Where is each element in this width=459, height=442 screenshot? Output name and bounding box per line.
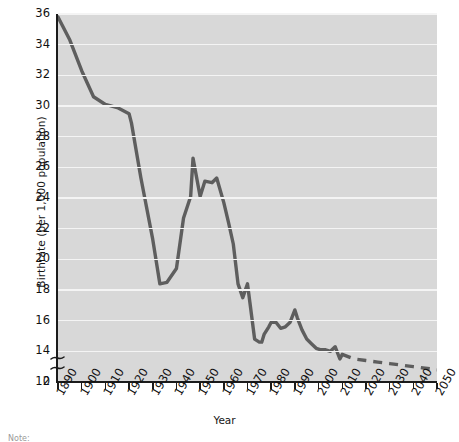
gridline bbox=[58, 228, 437, 230]
y-axis-tick-label: 28 bbox=[26, 131, 50, 143]
figure-footnote: Note: bbox=[8, 434, 438, 442]
gridline bbox=[58, 320, 437, 322]
gridline bbox=[58, 105, 437, 107]
gridline bbox=[58, 44, 437, 46]
x-axis-title: Year bbox=[0, 414, 449, 426]
gridline bbox=[58, 75, 437, 77]
birthrate-actual-line bbox=[58, 17, 342, 359]
y-axis-tick-label: 20 bbox=[26, 253, 50, 265]
y-axis-tick-label: 18 bbox=[26, 284, 50, 296]
y-axis-tick-label: 30 bbox=[26, 100, 50, 112]
gridline bbox=[58, 167, 437, 169]
gridline bbox=[58, 259, 437, 261]
y-axis-tick-label: 32 bbox=[26, 69, 50, 81]
gridline bbox=[58, 197, 437, 199]
y-axis-tick-label: 22 bbox=[26, 223, 50, 235]
y-axis-tick-label: 24 bbox=[26, 192, 50, 204]
gridline bbox=[58, 13, 437, 15]
plot-area bbox=[58, 14, 437, 382]
gridline bbox=[58, 351, 437, 353]
y-axis-line bbox=[56, 14, 58, 382]
y-axis-tick-label: 36 bbox=[26, 8, 50, 20]
y-axis-tick-label: 16 bbox=[26, 315, 50, 327]
gridline bbox=[58, 289, 437, 291]
gridline bbox=[58, 136, 437, 138]
x-axis-tick-label: 2050 bbox=[434, 367, 459, 398]
y-axis-tick-label: 34 bbox=[26, 39, 50, 51]
y-axis-tick-label: 26 bbox=[26, 161, 50, 173]
